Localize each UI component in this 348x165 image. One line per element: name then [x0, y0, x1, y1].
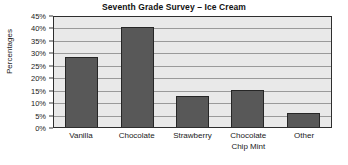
y-axis-tick-label: 30%	[31, 49, 46, 58]
y-axis-tick-label: 35%	[31, 36, 46, 45]
y-axis-tick-label: 25%	[31, 61, 46, 70]
x-axis-labels: VanillaChocolateStrawberryChocolateChip …	[53, 131, 332, 152]
y-axis-tick-label: 5%	[35, 111, 46, 120]
bar-slot	[109, 17, 164, 127]
y-axis-tick-label: 10%	[31, 99, 46, 108]
bar-strawberry[interactable]	[176, 96, 209, 127]
y-axis-tick-label: 15%	[31, 86, 46, 95]
y-axis-tick-label: 0%	[35, 124, 46, 133]
x-axis-label: Vanilla	[53, 131, 109, 152]
x-axis-label-line: Vanilla	[69, 131, 92, 140]
bar-chocolate-chip-mint[interactable]	[231, 90, 264, 127]
x-axis-label-line: Other	[294, 131, 314, 140]
x-axis-label: Other	[276, 131, 332, 152]
bar-chart: Seventh Grade Survey – Ice Cream Percent…	[0, 0, 348, 165]
bar-slot	[276, 17, 331, 127]
x-axis-label-line: Chocolate	[119, 131, 155, 140]
bars-layer	[54, 17, 331, 127]
bar-vanilla[interactable]	[65, 57, 98, 127]
bar-slot	[165, 17, 220, 127]
y-axis-tick-label: 20%	[31, 74, 46, 83]
x-axis-label: Chocolate	[109, 131, 165, 152]
y-axis-ticks: 0%5%10%15%20%25%30%35%40%45%	[18, 16, 49, 128]
y-axis-tick-label: 40%	[31, 24, 46, 33]
chart-title: Seventh Grade Survey – Ice Cream	[0, 2, 348, 12]
y-axis-title: Percentages	[5, 12, 14, 92]
x-axis-label-line: Strawberry	[173, 131, 212, 140]
bar-slot	[54, 17, 109, 127]
x-axis-label: Strawberry	[165, 131, 221, 152]
x-axis-label: ChocolateChip Mint	[220, 131, 276, 152]
bar-slot	[220, 17, 275, 127]
plot-area	[53, 16, 332, 128]
x-axis-label-line: Chocolate	[230, 131, 266, 140]
y-axis-tick-label: 45%	[31, 12, 46, 21]
x-axis-label-line: Chip Mint	[220, 142, 276, 153]
bar-chocolate[interactable]	[121, 27, 154, 127]
bar-other[interactable]	[287, 113, 320, 127]
